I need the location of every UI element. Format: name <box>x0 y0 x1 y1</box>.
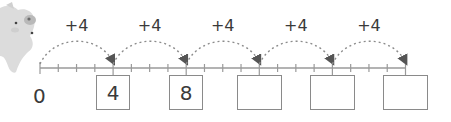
start-label: 0 <box>33 86 46 106</box>
answer-box-filled: 8 <box>169 75 203 110</box>
jump-arc <box>113 41 186 64</box>
jump-label: +4 <box>276 18 316 34</box>
number-line-diagram: 0 +4+4+4+4+4 48 <box>0 0 451 122</box>
answer-box-filled: 4 <box>96 75 130 110</box>
answer-box-empty[interactable] <box>237 75 282 110</box>
jump-arc <box>40 41 113 64</box>
jump-label: +4 <box>130 18 170 34</box>
jump-label: +4 <box>203 18 243 34</box>
answer-box-empty[interactable] <box>310 75 355 110</box>
jump-arc <box>259 41 332 64</box>
answer-box-empty[interactable] <box>383 75 428 110</box>
jump-label: +4 <box>349 18 389 34</box>
jump-arc <box>332 41 405 64</box>
jump-arc <box>186 41 259 64</box>
jump-label: +4 <box>57 18 97 34</box>
